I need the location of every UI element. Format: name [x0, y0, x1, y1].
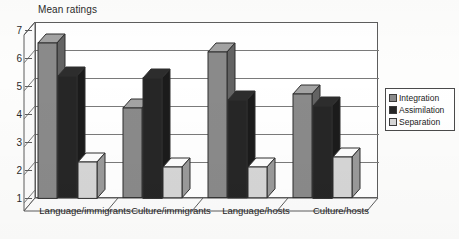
bar-separation-group-4: [333, 148, 362, 200]
chart-legend: Integration Assimilation Separation: [385, 88, 455, 131]
legend-label-integration: Integration: [399, 93, 439, 103]
ytick-label-2: 2: [6, 165, 22, 176]
xlabel-culture-hosts: Culture/hosts: [283, 205, 399, 216]
legend-item-separation: Separation: [389, 116, 451, 127]
ytick-mark-7: [25, 30, 32, 31]
ytick-mark-6: [25, 58, 32, 59]
legend-swatch-integration: [389, 94, 397, 102]
bar-separation-group-2: [163, 158, 192, 200]
legend-swatch-assimilation: [389, 106, 397, 114]
ytick-label-4: 4: [6, 109, 22, 120]
ytick-label-1: 1: [6, 193, 22, 204]
bar-chart-figure: Mean ratings 7 6 5 4 3 2 1: [0, 0, 459, 239]
bar-separation-group-1: [78, 153, 107, 200]
ytick-label-7: 7: [6, 25, 22, 36]
ytick-mark-3: [25, 142, 32, 143]
ytick-label-5: 5: [6, 81, 22, 92]
ytick-mark-1: [25, 198, 32, 199]
bar-separation-group-3: [248, 158, 277, 200]
legend-item-assimilation: Assimilation: [389, 104, 451, 115]
ytick-mark-4: [25, 114, 32, 115]
legend-label-separation: Separation: [399, 117, 440, 127]
ytick-label-6: 6: [6, 53, 22, 64]
ytick-mark-5: [25, 86, 32, 87]
ytick-label-3: 3: [6, 137, 22, 148]
legend-item-integration: Integration: [389, 92, 451, 103]
chart-title: Mean ratings: [38, 4, 97, 15]
legend-swatch-separation: [389, 118, 397, 126]
legend-label-assimilation: Assimilation: [399, 105, 444, 115]
ytick-mark-2: [25, 170, 32, 171]
